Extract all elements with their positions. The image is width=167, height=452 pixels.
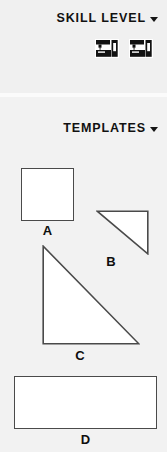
skill-level-header[interactable]: SKILL LEVEL <box>56 12 158 25</box>
chevron-down-icon[interactable] <box>150 127 158 132</box>
templates-header[interactable]: TEMPLATES <box>63 122 158 135</box>
templates-title: TEMPLATES <box>63 122 146 135</box>
skill-level-title: SKILL LEVEL <box>56 12 146 25</box>
skill-level-icon-row <box>95 39 153 58</box>
sewing-machine-icon[interactable] <box>95 39 119 58</box>
template-shape-a[interactable] <box>21 168 74 221</box>
template-shape-c[interactable] <box>42 245 140 345</box>
template-label-d: D <box>14 433 157 446</box>
template-label-a: A <box>21 224 74 237</box>
chevron-down-icon[interactable] <box>150 17 158 22</box>
template-shape-d[interactable] <box>14 376 157 429</box>
template-label-c: C <box>70 349 90 362</box>
sewing-machine-icon[interactable] <box>129 39 153 58</box>
skill-level-panel: SKILL LEVEL <box>0 0 167 93</box>
